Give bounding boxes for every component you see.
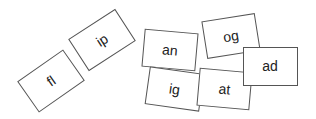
card-label: at (217, 81, 230, 98)
card-label: ip (93, 30, 111, 49)
card-label: og (222, 27, 240, 45)
card-label: an (162, 41, 179, 58)
card-ip[interactable]: ip (68, 9, 136, 71)
card-an[interactable]: an (141, 29, 198, 72)
card-label: ig (167, 80, 180, 97)
card-label: ad (262, 58, 278, 74)
card-ad[interactable]: ad (243, 47, 298, 86)
card-ig[interactable]: ig (144, 66, 204, 111)
card-area: fl ip an og ig at ad (0, 0, 316, 119)
card-label: fl (44, 72, 59, 89)
card-fl[interactable]: fl (17, 49, 85, 112)
